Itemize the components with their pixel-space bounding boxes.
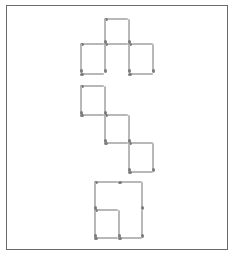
matchstick[interactable] (81, 73, 104, 75)
matchstick[interactable] (104, 115, 106, 142)
matchstick[interactable] (105, 142, 128, 144)
matchstick[interactable] (141, 182, 143, 209)
matchstick[interactable] (94, 210, 96, 237)
matchstick[interactable] (95, 209, 118, 211)
matchstick[interactable] (128, 115, 130, 142)
matchstick[interactable] (95, 181, 118, 183)
matchstick[interactable] (129, 73, 153, 75)
matchstick[interactable] (129, 171, 153, 173)
matchstick[interactable] (80, 44, 82, 72)
matchstick[interactable] (152, 143, 154, 171)
matchstick[interactable] (81, 114, 104, 116)
puzzle-frame (6, 5, 228, 250)
match-head-icon (128, 73, 132, 76)
matchstick[interactable] (104, 19, 106, 43)
matchstick[interactable] (129, 43, 153, 45)
matchstick[interactable] (128, 143, 130, 171)
matchstick[interactable] (94, 182, 96, 209)
matchstick[interactable] (141, 210, 143, 237)
match-head-icon (94, 237, 98, 240)
matchstick[interactable] (128, 44, 130, 72)
matchstick[interactable] (105, 114, 128, 116)
matchstick[interactable] (104, 86, 106, 114)
matchstick[interactable] (105, 43, 128, 45)
match-head-icon (118, 181, 122, 184)
match-head-icon (128, 171, 132, 174)
matchstick[interactable] (119, 181, 142, 183)
matchstick[interactable] (129, 142, 153, 144)
matchstick[interactable] (105, 18, 128, 20)
match-head-icon (80, 73, 84, 76)
matchstick[interactable] (119, 237, 142, 239)
match-head-icon (118, 237, 122, 240)
matchstick[interactable] (81, 85, 104, 87)
matchstick[interactable] (152, 44, 154, 72)
match-head-icon (104, 69, 107, 73)
matchstick[interactable] (128, 19, 130, 43)
matchstick[interactable] (95, 237, 118, 239)
matchstick[interactable] (81, 43, 104, 45)
matchstick[interactable] (104, 44, 106, 72)
match-head-icon (80, 114, 84, 117)
matchstick[interactable] (118, 210, 120, 237)
matchstick[interactable] (80, 86, 82, 114)
match-head-icon (104, 142, 108, 145)
